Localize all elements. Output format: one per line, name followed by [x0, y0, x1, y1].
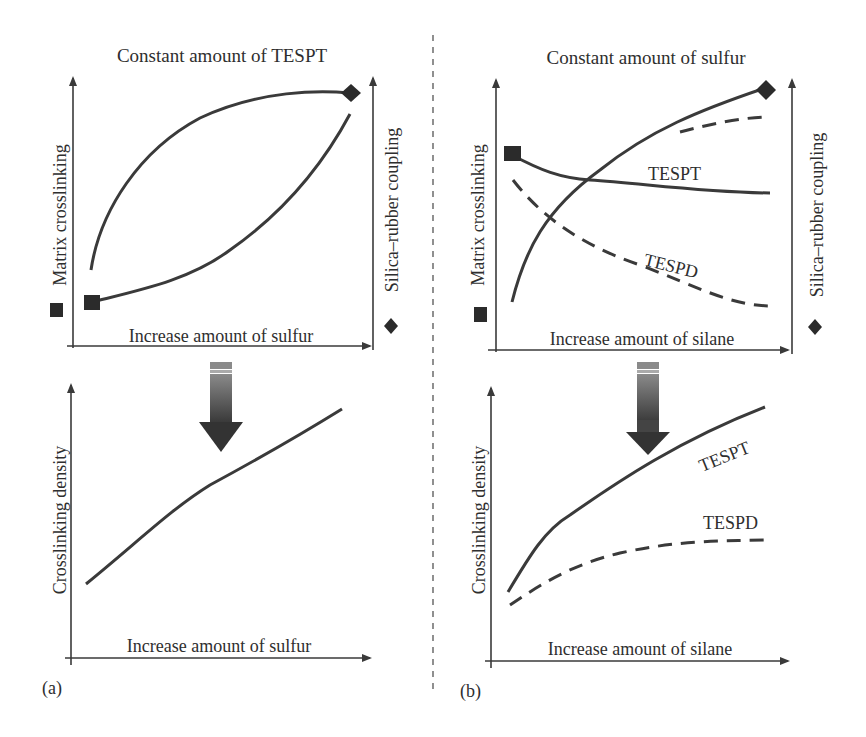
y-axis-left-label: Matrix crosslinking — [50, 144, 70, 286]
x-axis-label: Increase amount of sulfur — [127, 636, 311, 656]
matrix-crosslinking-tespt-curve — [512, 155, 770, 193]
y-axis-label: Crosslinking density — [50, 446, 70, 595]
diamond-marker — [341, 84, 361, 102]
x-axis-label: Increase amount of silane — [550, 329, 734, 349]
panel-b-top-title: Constant amount of sulfur — [547, 47, 747, 68]
panel-label-a: (a) — [42, 678, 62, 699]
square-marker — [504, 146, 521, 161]
square-marker-legend — [474, 307, 487, 322]
panel-b-bottom-chart: Increase amount of silane Crosslinking d… — [460, 388, 788, 702]
tespt-label: TESPT — [696, 437, 753, 475]
diamond-marker — [756, 80, 776, 100]
crosslinking-density-tespd-curve — [510, 540, 765, 605]
x-axis-label: Increase amount of sulfur — [129, 326, 313, 346]
figure-canvas: Constant amount of TESPT Increase amount… — [0, 0, 866, 737]
panel-a-top-chart: Constant amount of TESPT Increase amount… — [50, 45, 402, 350]
tespd-label: TESPD — [703, 513, 758, 533]
matrix-crosslinking-tespd-curve — [513, 180, 770, 306]
panel-a-top-title: Constant amount of TESPT — [117, 45, 328, 66]
tespt-label: TESPT — [648, 164, 701, 184]
y-axis-right-label: Silica–rubber coupling — [807, 133, 827, 297]
panel-label-b: (b) — [460, 681, 481, 702]
diamond-marker-legend — [808, 319, 822, 335]
down-arrow-b — [626, 362, 670, 455]
square-marker — [84, 295, 100, 310]
diamond-marker-legend — [384, 318, 398, 334]
down-arrow-a — [199, 362, 243, 452]
square-marker-legend — [50, 303, 63, 317]
coupling-curve — [91, 92, 350, 270]
y-axis-left-label: Matrix crosslinking — [468, 144, 488, 286]
coupling-tespd-curve — [680, 117, 765, 132]
panel-a-bottom-chart: Increase amount of sulfur Crosslinking d… — [42, 385, 370, 699]
y-axis-right-label: Silica–rubber coupling — [382, 128, 402, 292]
panel-b-top-chart: Constant amount of sulfur Increase amoun… — [468, 47, 827, 354]
x-axis-label: Increase amount of silane — [548, 639, 732, 659]
matrix-crosslinking-curve — [92, 114, 350, 302]
y-axis-label: Crosslinking density — [469, 446, 489, 595]
